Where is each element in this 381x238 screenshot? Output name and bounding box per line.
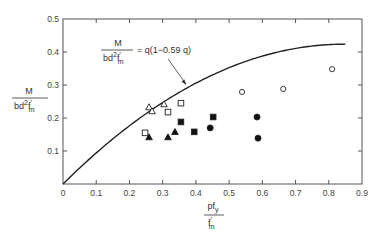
open-square-point xyxy=(165,109,171,115)
equation-den-m: m xyxy=(118,58,124,65)
x-tick-label: 0.8 xyxy=(323,188,335,198)
x-tick-label: 0.2 xyxy=(124,188,136,198)
x-tick-label: 0.7 xyxy=(290,188,302,198)
filled-circle-point xyxy=(207,125,213,131)
data-points xyxy=(142,67,334,142)
x-label-denominator: f′m xyxy=(208,216,215,230)
y-tick-label: 0.4 xyxy=(47,47,59,57)
x-label-numerator: pfy xyxy=(207,201,219,214)
y-tick-label: 0.3 xyxy=(47,80,59,90)
x-den-prime: ′ xyxy=(211,216,213,223)
equation-den-bd: bd xyxy=(103,53,113,63)
x-tick-label: 0.6 xyxy=(256,188,268,198)
x-den-m: m xyxy=(209,223,215,230)
open-circle-point xyxy=(281,86,286,91)
ticks xyxy=(63,19,362,184)
filled-square-point xyxy=(191,129,197,135)
filled-circle-point xyxy=(255,135,261,141)
equation-lhs-denominator: bd2f′m xyxy=(103,51,124,65)
y-tick-label: 0.1 xyxy=(47,146,59,156)
plot-frame xyxy=(63,19,362,184)
tick-labels: 00.10.20.30.40.50.60.70.80.90.10.20.30.4… xyxy=(47,14,368,198)
y-den-prime: ′ xyxy=(30,99,32,106)
open-circle-point xyxy=(239,89,244,94)
equation-den-prime: ′ xyxy=(119,51,121,58)
axes-frame xyxy=(63,19,362,184)
filled-triangle-point xyxy=(165,134,172,140)
y-label-numerator: M xyxy=(25,86,33,96)
chart: 00.10.20.30.40.50.60.70.80.90.10.20.30.4… xyxy=(0,0,381,238)
y-label-denominator: bd2f′m xyxy=(14,99,35,113)
x-tick-label: 0.5 xyxy=(223,188,235,198)
x-num-y: y xyxy=(215,206,219,214)
filled-square-point xyxy=(210,114,216,120)
x-tick-label: 0.4 xyxy=(190,188,202,198)
x-tick-label: 0 xyxy=(61,188,66,198)
open-circle-point xyxy=(330,67,335,72)
x-tick-label: 0.1 xyxy=(90,188,102,198)
equation-annotation: M bd2f′m = q(1−0.59 q) xyxy=(101,38,191,85)
annotation-arrowhead xyxy=(182,80,187,86)
equation-lhs-numerator: M xyxy=(114,38,122,48)
open-square-point xyxy=(142,130,148,136)
x-tick-label: 0.9 xyxy=(356,188,368,198)
annotation-arrow xyxy=(168,59,186,84)
filled-square-point xyxy=(178,119,184,125)
y-tick-label: 0.5 xyxy=(47,14,59,24)
y-tick-label: 0.2 xyxy=(47,113,59,123)
x-tick-label: 0.3 xyxy=(157,188,169,198)
y-den-bd: bd xyxy=(14,101,24,111)
filled-circle-point xyxy=(254,114,260,120)
y-den-m: m xyxy=(29,106,35,113)
equation-rhs: = q(1−0.59 q) xyxy=(137,45,191,55)
y-axis-label: M bd2f′m xyxy=(12,86,48,113)
filled-triangle-point xyxy=(172,129,179,135)
x-axis-label: pfy f′m xyxy=(204,201,224,230)
theory-curve xyxy=(63,44,345,184)
open-square-point xyxy=(178,100,184,106)
